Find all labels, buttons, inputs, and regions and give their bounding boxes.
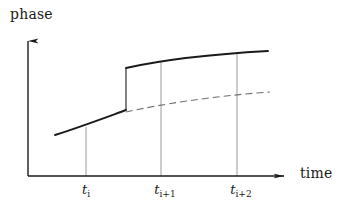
x-axis-label: time bbox=[300, 165, 332, 181]
phase-curve-post-jump bbox=[126, 51, 268, 68]
phase-curve-pre-jump bbox=[55, 110, 126, 135]
tick-subscript: i+1 bbox=[159, 189, 175, 199]
phase-time-diagram: phase time ti ti+1 ti+2 bbox=[0, 0, 341, 205]
tick-subscript: i+2 bbox=[235, 189, 251, 199]
dashed-reference-curve bbox=[126, 92, 270, 112]
y-axis-label: phase bbox=[10, 6, 53, 22]
axes bbox=[28, 41, 284, 176]
tick-subscript: i bbox=[87, 189, 90, 199]
x-tick-label-t-i-plus-1: ti+1 bbox=[154, 182, 176, 202]
dashed-continuation-path bbox=[126, 92, 270, 112]
plot-canvas bbox=[0, 0, 341, 205]
tick-guide-lines bbox=[86, 53, 237, 176]
x-tick-label-t-i: ti bbox=[82, 182, 90, 202]
x-tick-label-t-i-plus-2: ti+2 bbox=[230, 182, 252, 202]
